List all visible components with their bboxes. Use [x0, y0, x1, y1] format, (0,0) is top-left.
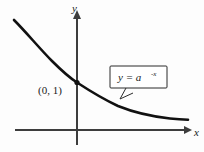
equation-label: y = a: [117, 71, 142, 83]
exponential-decay-figure: y = a -x (0, 1) y x: [0, 0, 204, 152]
y-axis-label: y: [71, 2, 77, 14]
callout-leader-line: [120, 88, 133, 99]
x-axis: [15, 126, 192, 134]
y-intercept-dot: [74, 80, 79, 85]
chart-canvas: y = a -x (0, 1) y x: [0, 0, 204, 152]
y-intercept-label: (0, 1): [38, 84, 62, 97]
equation-exponent: -x: [151, 70, 157, 78]
y-axis: [73, 10, 81, 145]
x-axis-label: x: [193, 126, 199, 138]
